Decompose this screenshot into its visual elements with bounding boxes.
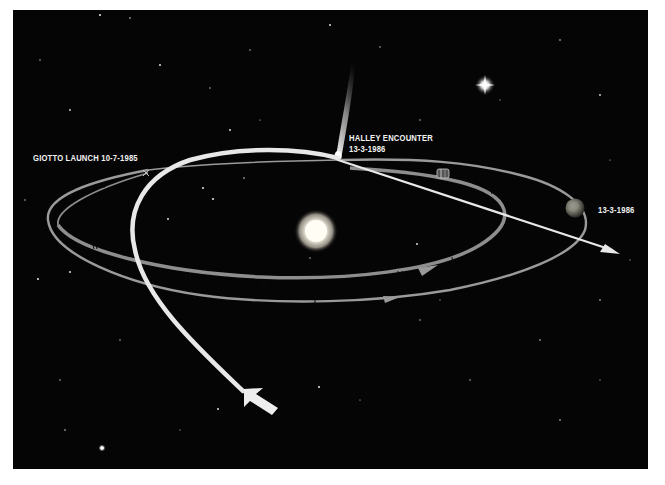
bright-star-lower-left [98, 444, 106, 452]
halley-encounter-label: HALLEY ENCOUNTER [349, 133, 433, 144]
halley-encounter-date: 13-3-1986 [349, 144, 386, 155]
trajectory-arrowhead [600, 244, 620, 254]
sun-icon [294, 209, 338, 253]
comet-inner-orbit [58, 168, 505, 278]
giotto-trajectory [132, 150, 612, 391]
earth-position-date: 13-3-1986 [598, 205, 635, 216]
giotto-launch-arrow-icon [244, 388, 278, 415]
bright-star-icon [475, 75, 495, 95]
giotto-spacecraft-icon [437, 169, 449, 178]
trajectory-diagram [0, 0, 665, 485]
giotto-launch-label: GIOTTO LAUNCH 10-7-1985 [33, 153, 138, 164]
earth-icon [566, 199, 585, 218]
